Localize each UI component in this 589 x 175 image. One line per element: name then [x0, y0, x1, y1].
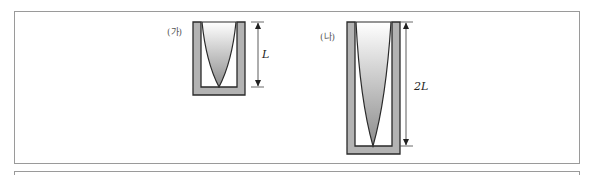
cone-b — [356, 22, 391, 146]
panel-b-label: (나) — [320, 32, 335, 42]
panel-a-label: (가) — [167, 27, 182, 37]
figure-canvas: (가) L (나) 2L — [0, 0, 589, 175]
dimension-label-b: 2L — [413, 80, 428, 93]
panel-a: (가) L — [167, 22, 269, 95]
dimension-label-a: L — [261, 48, 269, 61]
cone-a — [202, 22, 236, 87]
panel-b: (나) 2L — [320, 22, 428, 154]
